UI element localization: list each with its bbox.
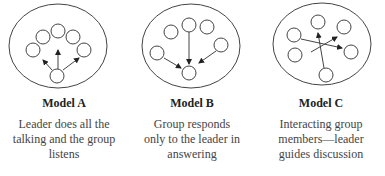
description-line: Interacting group: [257, 117, 385, 132]
model-a-description: Leader does all the talking and the grou…: [0, 117, 128, 162]
member-node: [288, 48, 302, 62]
arrow: [318, 33, 324, 68]
model-a-diagram: [9, 4, 107, 88]
arrow: [311, 37, 337, 52]
description-line: listens: [0, 147, 128, 162]
leader-node: [182, 66, 196, 80]
member-node: [66, 30, 80, 44]
model-b-diagram: [142, 4, 240, 88]
models-diagram: [0, 0, 385, 96]
arrow: [164, 58, 181, 68]
description-line: members—leader: [257, 132, 385, 147]
model-a-title: Model A: [0, 96, 128, 111]
member-node: [164, 25, 178, 39]
model-b-description: Group responds only to the leader in ans…: [128, 117, 256, 162]
model-b-caption: Model B Group responds only to the leade…: [128, 96, 256, 162]
description-line: Group responds: [128, 117, 256, 132]
member-node: [36, 30, 50, 44]
member-node: [344, 45, 358, 59]
member-node: [311, 15, 325, 29]
member-node: [150, 46, 164, 60]
model-a-caption: Model A Leader does all the talking and …: [0, 96, 128, 162]
member-node: [214, 38, 228, 52]
member-node: [26, 43, 40, 57]
arrow: [63, 58, 79, 70]
group-boundary: [9, 4, 107, 88]
member-node: [51, 24, 65, 38]
arrow: [301, 39, 342, 48]
member-node: [77, 43, 91, 57]
leader-node: [50, 69, 64, 83]
arrow: [199, 51, 216, 63]
description-line: Leader does all the: [0, 117, 128, 132]
member-node: [200, 20, 214, 34]
description-line: guides discussion: [257, 147, 385, 162]
member-node: [319, 68, 333, 82]
description-line: only to the leader in: [128, 132, 256, 147]
member-node: [287, 28, 301, 42]
member-node: [182, 18, 196, 32]
model-c-caption: Model C Interacting group members—leader…: [257, 96, 385, 162]
model-b-title: Model B: [128, 96, 256, 111]
model-c-diagram: [273, 3, 371, 85]
member-node: [337, 20, 351, 34]
model-c-title: Model C: [257, 96, 385, 111]
description-line: answering: [128, 147, 256, 162]
description-line: talking and the group: [0, 132, 128, 147]
arrow: [43, 60, 52, 70]
model-c-description: Interacting group members—leader guides …: [257, 117, 385, 162]
